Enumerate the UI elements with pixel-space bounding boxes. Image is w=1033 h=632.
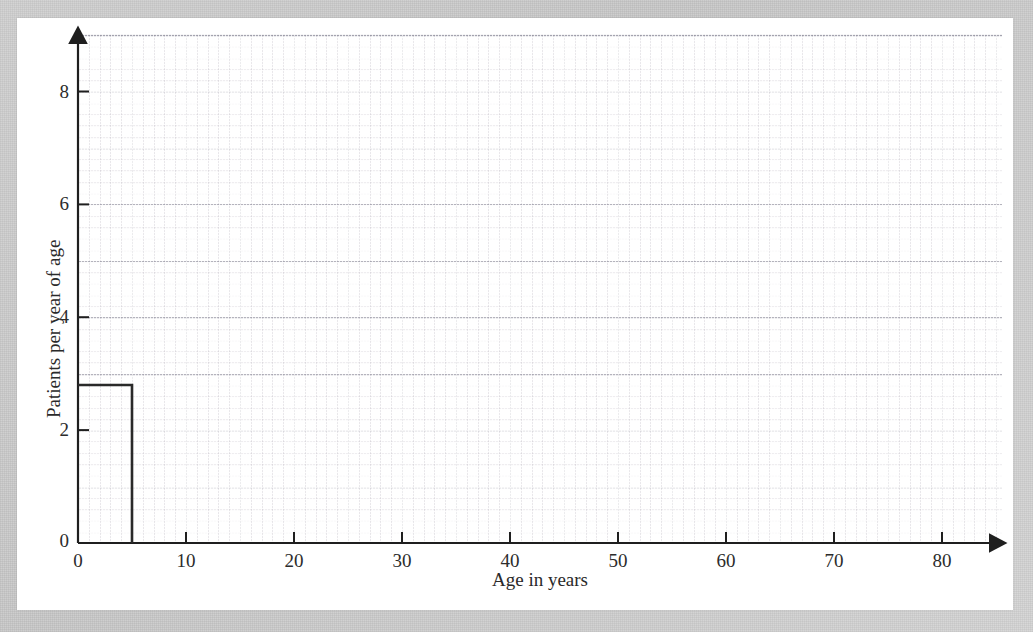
y-tick-label-6: 6 — [49, 193, 69, 215]
chart-axes-and-data — [17, 18, 1013, 610]
y-tick-label-0: 0 — [49, 530, 69, 552]
y-tick-label-2: 2 — [49, 419, 69, 441]
scanned-page-frame: 0 10 20 30 40 50 60 70 80 0 2 4 6 8 Age … — [0, 0, 1033, 632]
y-tick-label-8: 8 — [49, 81, 69, 103]
x-axis-ticks — [186, 532, 942, 543]
y-axis-title: Patients per year of age — [43, 240, 65, 418]
histogram-chart: 0 10 20 30 40 50 60 70 80 0 2 4 6 8 Age … — [17, 18, 1013, 610]
histogram-bar-0-5 — [78, 385, 132, 543]
y-axis-ticks — [78, 92, 89, 431]
x-axis-title: Age in years — [78, 569, 1002, 591]
chart-paper: 0 10 20 30 40 50 60 70 80 0 2 4 6 8 Age … — [17, 18, 1013, 610]
